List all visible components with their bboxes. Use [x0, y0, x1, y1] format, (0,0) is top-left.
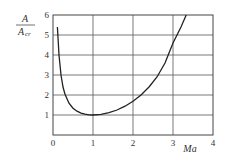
y-label-numerator: A: [21, 13, 29, 24]
y-tick-label: 6: [45, 10, 50, 20]
x-tick-label: 1: [91, 138, 96, 148]
y-label-denominator: A: [17, 26, 25, 37]
x-tick-label: 4: [211, 138, 216, 148]
y-tick-label: 2: [45, 90, 50, 100]
y-tick-label: 1: [45, 110, 50, 120]
y-tick-label: 3: [45, 70, 50, 80]
x-tick-label: 2: [131, 138, 136, 148]
y-tick-labels: 123456: [45, 10, 50, 120]
y-tick-label: 5: [45, 30, 50, 40]
x-tick-label: 0: [51, 138, 56, 148]
y-axis-label: A A cr: [16, 13, 35, 38]
y-label-subscript: cr: [25, 30, 31, 38]
x-axis-label: Ma: [182, 143, 196, 154]
x-tick-label: 3: [171, 138, 176, 148]
grid-lines: [53, 15, 213, 135]
area-ratio-chart: 01234 123456 A A cr Ma: [0, 0, 225, 165]
y-tick-label: 4: [45, 50, 50, 60]
area-ratio-curve: [57, 15, 186, 115]
